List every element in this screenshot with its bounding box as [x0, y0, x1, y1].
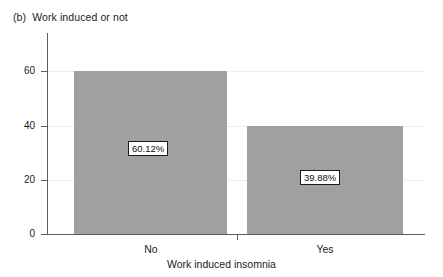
- x-tick-mark-center: [237, 235, 238, 240]
- y-tick-label-60: 60: [5, 65, 35, 76]
- x-tick-label-no: No: [121, 243, 181, 255]
- y-tick-label-40: 40: [5, 120, 35, 131]
- panel-title: (b) Work induced or not: [13, 11, 128, 23]
- x-axis-title: Work induced insomnia: [0, 258, 443, 270]
- y-tick-mark-60: [41, 71, 47, 72]
- bar-label-yes: 39.88%: [300, 170, 340, 185]
- y-tick-label-0: 0: [5, 228, 35, 239]
- y-axis-spine: [47, 33, 48, 235]
- y-tick-label-20: 20: [5, 174, 35, 185]
- x-axis-spine: [47, 234, 425, 235]
- y-tick-mark-0: [41, 234, 47, 235]
- bar-label-no: 60.12%: [128, 141, 168, 156]
- x-tick-label-yes: Yes: [295, 243, 355, 255]
- y-tick-mark-20: [41, 180, 47, 181]
- bar-chart-figure: (b) Work induced or not 60.12% 39.88% 60…: [0, 0, 443, 277]
- plot-area: 60.12% 39.88%: [47, 33, 425, 234]
- y-tick-mark-40: [41, 126, 47, 127]
